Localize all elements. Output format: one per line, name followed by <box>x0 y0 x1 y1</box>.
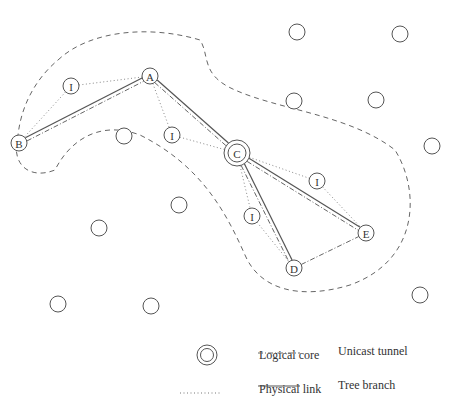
legend-physical-link: Physical link <box>180 382 321 396</box>
node-other <box>171 197 187 213</box>
physical-link-A-I2 <box>153 83 169 127</box>
node-a-member: A <box>142 68 158 84</box>
node-label: D <box>290 263 298 275</box>
node-circle <box>143 298 159 314</box>
legend: Logical core Physical link Unicast tunne… <box>180 344 408 396</box>
node-d-member: D <box>286 260 302 276</box>
unicast-tunnel-C-E <box>247 161 358 230</box>
node-label: I <box>315 176 319 188</box>
node-e-member: E <box>358 225 374 241</box>
node-other <box>143 298 159 314</box>
tree-branches <box>25 78 360 260</box>
physical-link-I1-A <box>79 77 142 85</box>
node-circle <box>171 197 187 213</box>
node-i-intermediate: I <box>63 78 79 94</box>
nodes: ABCDEIIII <box>11 24 440 314</box>
node-other <box>50 296 66 312</box>
node-other <box>424 138 440 154</box>
multicast-tree-diagram: ABCDEIIII Logical core Physical link Uni… <box>0 0 456 410</box>
node-circle <box>289 24 305 40</box>
node-circle <box>91 220 107 236</box>
node-b-member: B <box>11 135 27 151</box>
unicast-tunnel-D-E <box>301 236 359 264</box>
node-label: E <box>363 228 370 240</box>
physical-link-I1-B <box>24 92 65 137</box>
node-circle <box>412 287 428 303</box>
node-i-intermediate: I <box>309 173 325 189</box>
node-i-intermediate: I <box>244 208 260 224</box>
node-circle <box>286 93 302 109</box>
legend-label-physical-link: Physical link <box>259 382 321 396</box>
legend-logical-core: Logical core <box>197 345 319 365</box>
node-circle <box>368 92 384 108</box>
node-other <box>412 287 428 303</box>
node-other <box>286 93 302 109</box>
node-label: B <box>15 138 22 150</box>
physical-links <box>24 77 360 262</box>
tree-branch-C-E <box>249 158 360 227</box>
node-other <box>289 24 305 40</box>
legend-label-logical-core: Logical core <box>259 348 319 362</box>
node-other <box>116 128 132 144</box>
node-label: C <box>233 148 240 160</box>
node-c-core: C <box>224 140 250 166</box>
node-label: I <box>170 130 174 142</box>
node-label: A <box>146 71 154 83</box>
physical-link-I4-D <box>257 222 289 262</box>
group-boundary <box>16 32 410 292</box>
legend-label-tree-branch: Tree branch <box>338 378 395 392</box>
legend-label-unicast-tunnel: Unicast tunnel <box>338 344 408 358</box>
node-circle <box>392 26 408 42</box>
node-other <box>368 92 384 108</box>
node-circle <box>50 296 66 312</box>
node-other <box>91 220 107 236</box>
node-other <box>392 26 408 42</box>
node-circle <box>424 138 440 154</box>
node-label: I <box>69 81 73 93</box>
node-circle <box>116 128 132 144</box>
logical-core-icon-inner <box>201 349 214 362</box>
node-i-intermediate: I <box>164 127 180 143</box>
node-label: I <box>250 211 254 223</box>
